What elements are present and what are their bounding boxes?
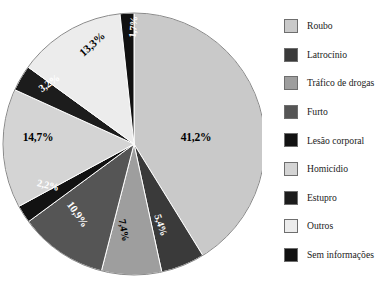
legend-item-label: Lesão corporal	[307, 136, 364, 146]
pie-svg	[0, 0, 262, 289]
legend-item[interactable]: Estupro	[262, 189, 392, 207]
legend-item-label: Sem informações	[307, 250, 374, 260]
legend-color-swatch	[284, 162, 298, 176]
legend-item-label: Homicídio	[307, 164, 348, 174]
legend-item-label: Latrocínio	[307, 50, 347, 60]
legend-color-swatch	[284, 191, 298, 205]
legend-item[interactable]: Furto	[262, 103, 392, 121]
legend-color-swatch	[284, 76, 298, 90]
legend-item[interactable]: Lesão corporal	[262, 131, 392, 149]
legend-item[interactable]: Outros	[262, 217, 392, 235]
legend-color-swatch	[284, 48, 298, 62]
legend-item-label: Furto	[307, 107, 328, 117]
legend-item[interactable]: Roubo	[262, 17, 392, 35]
pie-plot-area: 41,2%5,4%7,4%10,9%2,2%14,7%3,2%13,3%1,7%	[0, 0, 262, 289]
legend-item[interactable]: Sem informações	[262, 246, 392, 264]
legend-item-label: Tráfico de drogas	[307, 78, 374, 88]
legend-item-label: Outros	[307, 221, 333, 231]
legend: RouboLatrocínioTráfico de drogasFurtoLes…	[262, 0, 392, 289]
legend-list: RouboLatrocínioTráfico de drogasFurtoLes…	[262, 17, 392, 264]
legend-color-swatch	[284, 219, 298, 233]
pie-slice-group	[3, 13, 262, 275]
legend-item[interactable]: Tráfico de drogas	[262, 74, 392, 92]
legend-color-swatch	[284, 248, 298, 262]
legend-color-swatch	[284, 105, 298, 119]
legend-item-label: Estupro	[307, 193, 337, 203]
legend-color-swatch	[284, 133, 298, 147]
legend-color-swatch	[284, 19, 298, 33]
legend-item[interactable]: Latrocínio	[262, 46, 392, 64]
legend-item-label: Roubo	[307, 21, 333, 31]
pie-chart: 41,2%5,4%7,4%10,9%2,2%14,7%3,2%13,3%1,7%…	[0, 0, 392, 289]
legend-item[interactable]: Homicídio	[262, 160, 392, 178]
